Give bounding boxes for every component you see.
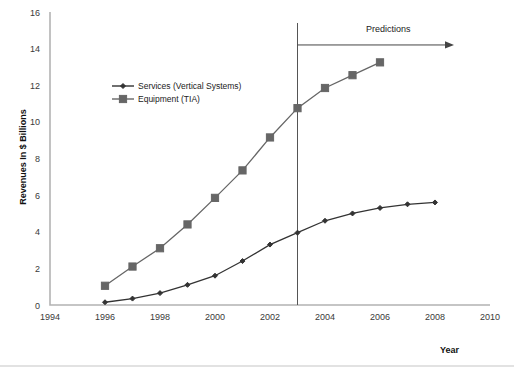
y-tick-label: 10 (30, 117, 40, 127)
x-tick-label: 2006 (370, 312, 390, 322)
axis-lines (50, 12, 490, 305)
data-point-marker (294, 105, 301, 112)
data-point-marker (158, 291, 163, 296)
x-tick-label: 2004 (315, 312, 335, 322)
x-tick-label: 1998 (150, 312, 170, 322)
x-tick-label: 1994 (40, 312, 60, 322)
data-point-marker (239, 167, 246, 174)
prediction-arrow-head (445, 41, 454, 48)
y-tick-label: 0 (35, 301, 40, 311)
data-point-marker (266, 134, 273, 141)
y-tick-label: 2 (35, 264, 40, 274)
data-point-marker (103, 300, 108, 305)
legend-label-0: Services (Vertical Systems) (138, 81, 242, 91)
x-tick-label: 1996 (95, 312, 115, 322)
data-point-marker (184, 221, 191, 228)
data-point-marker (130, 296, 135, 301)
x-tick-label: 2008 (425, 312, 445, 322)
line-chart: 0246810121416199419961998200020022004200… (0, 0, 514, 368)
data-point-marker (213, 273, 218, 278)
x-tick-label: 2010 (480, 312, 500, 322)
data-point-marker (121, 84, 126, 89)
data-point-marker (321, 84, 328, 91)
data-point-marker (211, 194, 218, 201)
data-point-marker (323, 218, 328, 223)
data-point-marker (378, 205, 383, 210)
data-point-marker (433, 200, 438, 205)
chart-container: 0246810121416199419961998200020022004200… (0, 0, 514, 368)
data-point-marker (350, 211, 355, 216)
data-point-marker (376, 59, 383, 66)
y-tick-label: 14 (30, 44, 40, 54)
y-tick-label: 8 (35, 154, 40, 164)
y-tick-label: 16 (30, 8, 40, 18)
x-tick-label: 2002 (260, 312, 280, 322)
y-tick-label: 6 (35, 191, 40, 201)
y-tick-label: 4 (35, 227, 40, 237)
data-point-marker (349, 72, 356, 79)
data-point-marker (156, 245, 163, 252)
legend-label-1: Equipment (TIA) (138, 94, 200, 104)
data-point-marker (101, 282, 108, 289)
prediction-annotation-label: Predictions (366, 24, 411, 34)
x-tick-label: 2000 (205, 312, 225, 322)
data-point-marker (119, 95, 126, 102)
data-point-marker (405, 202, 410, 207)
y-tick-label: 12 (30, 81, 40, 91)
chart-legend: Services (Vertical Systems)Equipment (TI… (112, 81, 242, 104)
data-point-marker (185, 282, 190, 287)
data-point-marker (129, 263, 136, 270)
data-point-marker (295, 230, 300, 235)
